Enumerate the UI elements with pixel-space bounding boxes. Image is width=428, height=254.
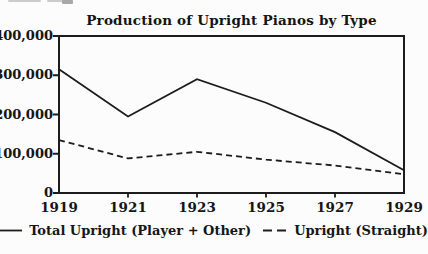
legend-item-upright-straight: Upright (Straight) bbox=[263, 223, 428, 238]
y-tick-label: 100,000 bbox=[0, 146, 53, 161]
x-tick-label: 1927 bbox=[316, 199, 354, 215]
y-tick-label: 300,000 bbox=[0, 67, 53, 82]
series-line-dashed bbox=[59, 140, 404, 174]
x-tick-label: 1919 bbox=[40, 199, 78, 215]
x-tick-label: 1925 bbox=[247, 199, 285, 215]
x-tick-label: 1921 bbox=[109, 199, 147, 215]
x-tick-label: 1923 bbox=[178, 199, 216, 215]
y-tick-label: 200,000 bbox=[0, 107, 53, 122]
legend-label-total-upright: Total Upright (Player + Other) bbox=[29, 223, 251, 238]
plot-frame bbox=[59, 36, 404, 193]
plot-area: 400,000300,000200,000100,000019191921192… bbox=[0, 0, 428, 254]
legend-label-upright-straight: Upright (Straight) bbox=[294, 223, 428, 238]
dashed-line-sample-icon bbox=[263, 228, 287, 233]
chart-canvas bbox=[0, 0, 428, 254]
legend-item-total-upright: Total Upright (Player + Other) bbox=[0, 223, 251, 238]
y-tick-label: 0 bbox=[44, 185, 53, 200]
y-tick-label: 400,000 bbox=[0, 28, 53, 43]
chart-legend: Total Upright (Player + Other) Upright (… bbox=[0, 223, 428, 238]
x-tick-label: 1929 bbox=[385, 199, 423, 215]
solid-line-sample-icon bbox=[0, 228, 22, 233]
